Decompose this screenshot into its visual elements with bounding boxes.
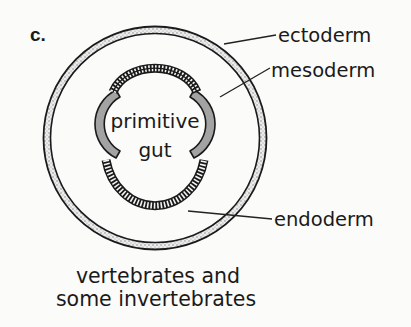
ectoderm-label: ectoderm [278,24,371,47]
endoderm-top-lobe [113,68,197,92]
endoderm-bottom-lobe [106,160,204,206]
primitive-gut [95,68,215,206]
panel-label: c. [30,24,46,45]
embryo-cross-section-diagram: c. primitive gut ectoderm [0,0,411,327]
endoderm-label: endoderm [274,208,374,231]
caption-line1: vertebrates and [76,264,240,288]
primitive-gut-label-line1: primitive [110,109,199,133]
caption-line2: some invertebrates [56,287,256,311]
mesoderm-label: mesoderm [271,59,375,82]
primitive-gut-label-line2: gut [138,138,171,162]
ectoderm-leader-line [224,35,276,44]
